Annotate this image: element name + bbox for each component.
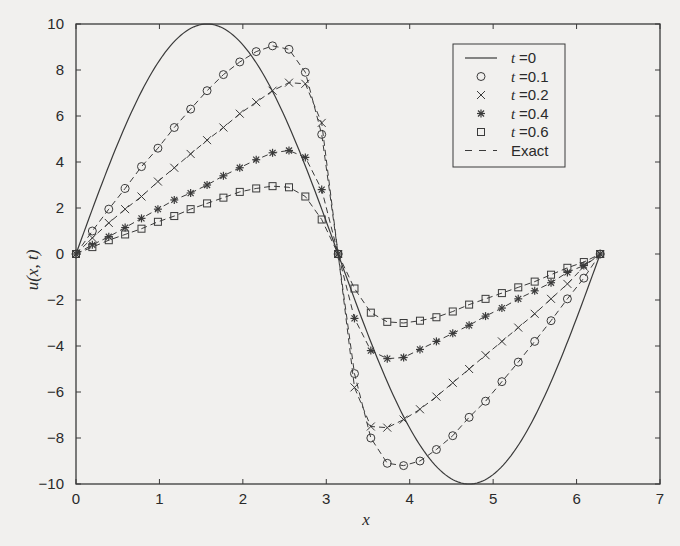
chart: 01234567 −10−8−6−4−20246810 x u(x, t) t … xyxy=(0,0,680,546)
data-point-asterisk xyxy=(269,149,277,157)
data-point-asterisk xyxy=(367,347,375,355)
y-tick-label: 6 xyxy=(56,107,64,124)
data-point-asterisk xyxy=(449,329,457,337)
data-point-asterisk xyxy=(236,164,244,172)
data-point-square xyxy=(548,271,555,278)
data-point-circle xyxy=(367,434,375,442)
data-point-x xyxy=(252,98,260,106)
data-point-x xyxy=(187,150,195,158)
data-point-x xyxy=(269,87,277,95)
x-tick-label: 1 xyxy=(155,490,163,507)
data-point-x xyxy=(416,405,424,413)
data-point-x xyxy=(547,295,555,303)
legend: t =0t =0.1t =0.2t =0.4t =0.6Exact xyxy=(453,44,565,167)
data-point-asterisk xyxy=(383,355,391,363)
data-point-asterisk xyxy=(498,304,506,312)
data-point-asterisk xyxy=(203,181,211,189)
data-point-x xyxy=(203,136,211,144)
legend-label: Exact xyxy=(511,142,549,159)
data-point-asterisk xyxy=(137,214,145,222)
data-point-asterisk xyxy=(482,312,490,320)
data-point-circle xyxy=(88,227,96,235)
data-point-asterisk xyxy=(514,295,522,303)
y-tick-label: −8 xyxy=(47,429,64,446)
data-point-square xyxy=(220,194,227,201)
data-point-square xyxy=(433,314,440,321)
data-point-asterisk xyxy=(187,189,195,197)
data-point-asterisk xyxy=(547,279,555,287)
y-tick-label: −10 xyxy=(39,475,64,492)
legend-label: t =0.2 xyxy=(511,86,549,103)
data-point-asterisk xyxy=(416,345,424,353)
x-tick-label: 4 xyxy=(406,490,414,507)
data-point-x xyxy=(432,393,440,401)
data-point-circle xyxy=(465,413,473,421)
data-point-x xyxy=(121,205,129,213)
data-point-x xyxy=(350,383,358,391)
legend-label: t =0.4 xyxy=(511,105,549,122)
data-point-x xyxy=(482,351,490,359)
y-tick-label: 4 xyxy=(56,153,64,170)
data-point-asterisk xyxy=(252,156,260,164)
y-tick-label: 0 xyxy=(56,245,64,262)
data-point-circle xyxy=(531,337,539,345)
data-point-asterisk xyxy=(350,314,358,322)
y-axis-title: u(x, t) xyxy=(23,249,42,290)
legend-asterisk-icon xyxy=(477,110,485,118)
data-point-square xyxy=(384,318,391,325)
data-point-asterisk xyxy=(219,172,227,180)
y-tick-label: 8 xyxy=(56,61,64,78)
data-point-x xyxy=(449,379,457,387)
legend-label: t =0.1 xyxy=(511,68,549,85)
data-point-asterisk xyxy=(596,250,604,258)
data-point-circle xyxy=(137,163,145,171)
x-tick-label: 6 xyxy=(572,490,580,507)
data-point-x xyxy=(170,164,178,172)
data-point-asterisk xyxy=(154,205,162,213)
data-point-asterisk xyxy=(88,241,96,249)
data-point-x xyxy=(498,337,506,345)
data-point-x xyxy=(236,110,244,118)
data-point-square xyxy=(154,218,161,225)
data-point-circle xyxy=(285,45,293,53)
x-tick-label: 5 xyxy=(489,490,497,507)
data-point-x xyxy=(105,219,113,227)
x-tick-label: 2 xyxy=(239,490,247,507)
x-tick-label: 7 xyxy=(656,490,664,507)
plot-frame xyxy=(76,24,660,484)
data-point-x xyxy=(154,178,162,186)
data-point-x xyxy=(514,324,522,332)
series-t0-6 xyxy=(73,183,604,327)
data-point-x xyxy=(301,80,309,88)
x-axis-title: x xyxy=(361,510,370,529)
data-point-x xyxy=(137,193,145,201)
data-point-square xyxy=(367,309,374,316)
y-tick-label: −6 xyxy=(47,383,64,400)
data-point-asterisk xyxy=(531,287,539,295)
x-tick-label: 0 xyxy=(72,490,80,507)
data-point-circle xyxy=(580,274,588,282)
data-point-asterisk xyxy=(400,354,408,362)
plot-border xyxy=(76,24,660,484)
data-point-x xyxy=(285,79,293,87)
data-point-circle xyxy=(482,397,490,405)
y-tick-label: −2 xyxy=(47,291,64,308)
data-point-square xyxy=(416,317,423,324)
data-point-asterisk xyxy=(285,147,293,155)
data-point-asterisk xyxy=(432,337,440,345)
data-point-x xyxy=(531,310,539,318)
data-point-circle xyxy=(203,87,211,95)
data-point-asterisk xyxy=(465,321,473,329)
data-point-asterisk xyxy=(121,224,129,232)
data-point-asterisk xyxy=(318,186,326,194)
data-point-circle xyxy=(269,42,277,50)
legend-label: t =0.6 xyxy=(511,123,549,140)
data-point-asterisk xyxy=(170,196,178,204)
data-point-x xyxy=(219,124,227,132)
data-point-x xyxy=(563,280,571,288)
data-point-square xyxy=(482,295,489,302)
data-point-asterisk xyxy=(563,268,571,276)
legend-label: t =0 xyxy=(511,49,536,66)
y-tick-label: −4 xyxy=(47,337,64,354)
y-axis: −10−8−6−4−20246810 xyxy=(39,15,660,492)
